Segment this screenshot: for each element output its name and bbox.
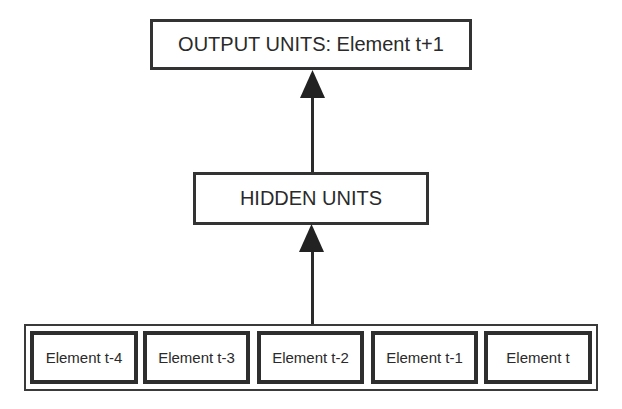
- arrow-head-up-icon: [299, 224, 324, 252]
- output-units-box: OUTPUT UNITS: Element t+1: [150, 19, 472, 70]
- hidden-units-box: HIDDEN UNITS: [193, 172, 429, 225]
- input-element-t-4: Element t-4: [30, 331, 138, 384]
- input-element-t: Element t: [484, 331, 592, 384]
- input-element-t-3: Element t-3: [143, 331, 250, 384]
- input-element-t-1: Element t-1: [371, 331, 478, 384]
- arrow-shaft-hidden-to-output: [311, 95, 314, 173]
- input-element-t-2: Element t-2: [257, 331, 364, 384]
- output-units-label: OUTPUT UNITS: Element t+1: [178, 33, 444, 56]
- hidden-units-label: HIDDEN UNITS: [240, 187, 382, 210]
- arrow-head-up-icon: [300, 70, 325, 98]
- arrow-shaft-input-to-hidden: [311, 249, 314, 325]
